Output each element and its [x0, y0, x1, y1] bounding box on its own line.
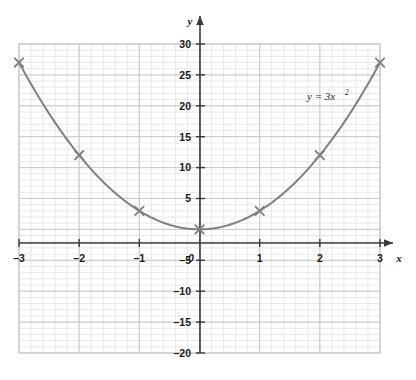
y-tick-label: –15	[173, 316, 191, 328]
y-tick-label: –10	[173, 285, 191, 297]
x-tick-label: 3	[377, 252, 383, 264]
x-tick-label: 1	[257, 252, 263, 264]
x-tick-label: 2	[317, 252, 323, 264]
y-tick-label: 10	[179, 161, 191, 173]
x-tick-label: –1	[133, 252, 145, 264]
x-tick-label: –2	[73, 252, 85, 264]
equation-exponent: 2	[345, 88, 349, 97]
y-tick-label: 20	[179, 100, 191, 112]
parabola-chart: –3–2–1123 30252015105–5–10–15–20 y x 0 y…	[0, 0, 416, 380]
y-tick-label: 15	[179, 131, 191, 143]
x-axis-label: x	[395, 252, 402, 264]
graph-figure: –3–2–1123 30252015105–5–10–15–20 y x 0 y…	[0, 0, 416, 380]
y-tick-label: –20	[173, 347, 191, 359]
origin-tick-label: 0	[188, 252, 194, 264]
y-tick-label: 25	[179, 69, 191, 81]
y-tick-label: 5	[185, 192, 191, 204]
x-tick-label: –3	[13, 252, 25, 264]
equation-label: y = 3x	[306, 90, 335, 102]
y-axis-label: y	[186, 15, 193, 27]
chart-background	[0, 0, 416, 380]
y-tick-label: 30	[179, 38, 191, 50]
